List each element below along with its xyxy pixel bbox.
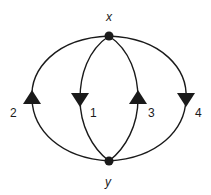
node-x <box>105 32 114 41</box>
edge-label-3: 3 <box>148 106 155 120</box>
arrow-down-icon <box>71 93 89 107</box>
node-y <box>105 157 114 166</box>
graph-diagram: x y 2 1 3 4 <box>0 0 211 195</box>
edge-label-1: 1 <box>90 106 97 120</box>
arrow-up-icon <box>23 90 41 104</box>
edge-4 <box>109 36 186 161</box>
edge-2 <box>32 36 109 161</box>
node-label-x: x <box>105 10 113 24</box>
arrow-up-icon <box>129 90 147 104</box>
edge-label-2: 2 <box>10 106 17 120</box>
edge-label-4: 4 <box>195 106 202 120</box>
node-label-y: y <box>104 175 112 189</box>
arrow-down-icon <box>177 93 195 107</box>
